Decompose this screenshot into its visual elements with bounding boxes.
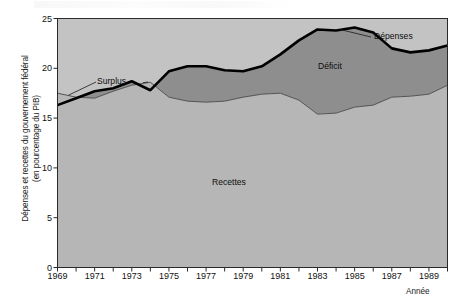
chart-figure: Dépenses et recettes du gouvernement féd… (0, 0, 469, 305)
deficit-label: Déficit (318, 61, 342, 71)
revenue-area (58, 82, 448, 267)
plot-area (0, 0, 469, 305)
depenses-label: Dépenses (374, 31, 413, 41)
surplus-label: Surplus (97, 76, 126, 86)
recettes-label: Recettes (212, 177, 246, 187)
